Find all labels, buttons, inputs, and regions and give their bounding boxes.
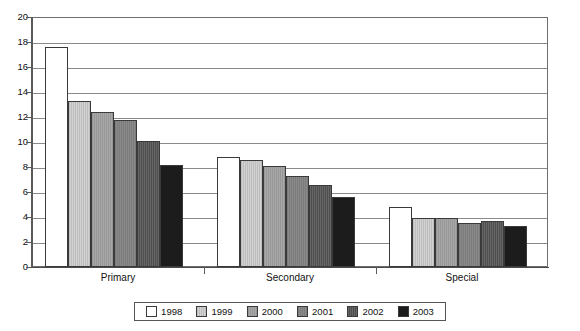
y-tick-label: 6 (6, 187, 28, 197)
bar-special-2000 (435, 218, 458, 267)
bar-primary-2003 (160, 165, 183, 268)
bar-secondary-2000 (263, 166, 286, 267)
legend-label: 1998 (161, 307, 182, 317)
legend-item-2002[interactable]: 2002 (347, 306, 383, 317)
legend-label: 2001 (312, 307, 333, 317)
legend-label: 2002 (362, 307, 383, 317)
y-tick-label: 2 (6, 237, 28, 247)
x-axis-line (32, 267, 549, 268)
y-tick-label: 20 (6, 12, 28, 22)
y-tick-label: 16 (6, 62, 28, 72)
legend-item-2001[interactable]: 2001 (297, 306, 333, 317)
legend-label: 2003 (413, 307, 434, 317)
bar-primary-2001 (114, 120, 137, 268)
bar-primary-1999 (68, 101, 91, 267)
bar-chart: 20181614121086420 PrimarySecondarySpecia… (0, 0, 580, 331)
bar-secondary-2003 (332, 197, 355, 267)
bar-secondary-1999 (240, 160, 263, 268)
bar-special-1999 (412, 218, 435, 267)
chart-legend: 199819992000200120022003 (134, 302, 446, 321)
legend-label: 1999 (211, 307, 232, 317)
legend-swatch-icon-2003 (398, 306, 409, 317)
legend-item-2000[interactable]: 2000 (247, 306, 283, 317)
bar-primary-2002 (137, 141, 160, 267)
legend-swatch-icon-2000 (247, 306, 258, 317)
bar-special-2001 (458, 223, 481, 267)
bar-special-2003 (504, 226, 527, 267)
legend-item-2003[interactable]: 2003 (398, 306, 434, 317)
legend-swatch-icon-1999 (196, 306, 207, 317)
bar-primary-1998 (45, 47, 68, 267)
bar-primary-2000 (91, 112, 114, 267)
legend-item-1999[interactable]: 1999 (196, 306, 232, 317)
bar-special-1998 (389, 207, 412, 267)
bar-secondary-2001 (286, 176, 309, 267)
y-tick-label: 18 (6, 37, 28, 47)
y-tick-label: 8 (6, 162, 28, 172)
y-tick-label: 4 (6, 212, 28, 222)
bar-special-2002 (481, 221, 504, 267)
legend-item-1998[interactable]: 1998 (146, 306, 182, 317)
y-tick-label: 0 (6, 262, 28, 272)
y-tick-label: 14 (6, 87, 28, 97)
legend-swatch-icon-1998 (146, 306, 157, 317)
bars-layer (32, 17, 548, 267)
legend-swatch-icon-2001 (297, 306, 308, 317)
y-tick-label: 12 (6, 112, 28, 122)
category-label-primary: Primary (32, 272, 204, 284)
bar-secondary-1998 (217, 157, 240, 267)
category-label-secondary: Secondary (204, 272, 376, 284)
legend-label: 2000 (262, 307, 283, 317)
y-tick-label: 10 (6, 137, 28, 147)
category-label-special: Special (376, 272, 548, 284)
legend-swatch-icon-2002 (347, 306, 358, 317)
bar-secondary-2002 (309, 185, 332, 268)
